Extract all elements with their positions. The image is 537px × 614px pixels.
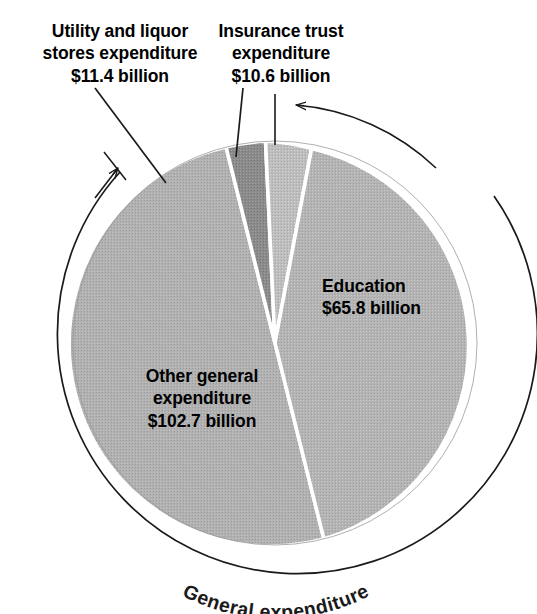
label-other-general: Other general expenditure $102.7 billion	[112, 365, 292, 432]
label-other-line2: expenditure	[112, 387, 292, 409]
label-education-value: $65.8 billion	[322, 297, 492, 319]
label-insurance-trust: Insurance trust expenditure $10.6 billio…	[196, 20, 366, 87]
label-other-value: $102.7 billion	[112, 410, 292, 432]
general-expenditure-arc-label: General expenditure	[180, 579, 372, 614]
general-expenditure-left-tick	[104, 152, 126, 180]
leader-line-utility	[95, 88, 166, 183]
general-expenditure-left-arrow	[95, 168, 118, 198]
label-education-line1: Education	[322, 275, 492, 297]
figure-canvas: General expenditure Utility and liquor s…	[0, 0, 537, 614]
label-insurance-value: $10.6 billion	[196, 65, 366, 87]
label-other-line1: Other general	[112, 365, 292, 387]
label-education: Education $65.8 billion	[322, 275, 492, 320]
label-insurance-line2: expenditure	[196, 42, 366, 64]
label-insurance-line1: Insurance trust	[196, 20, 366, 42]
